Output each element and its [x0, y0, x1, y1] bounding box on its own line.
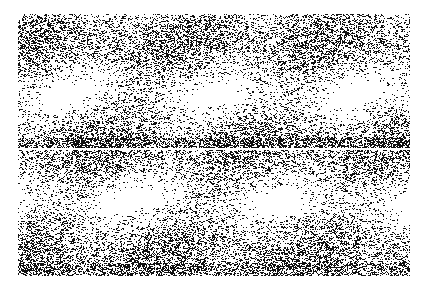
noise-texture — [18, 14, 410, 276]
noise-image-frame — [0, 0, 429, 287]
